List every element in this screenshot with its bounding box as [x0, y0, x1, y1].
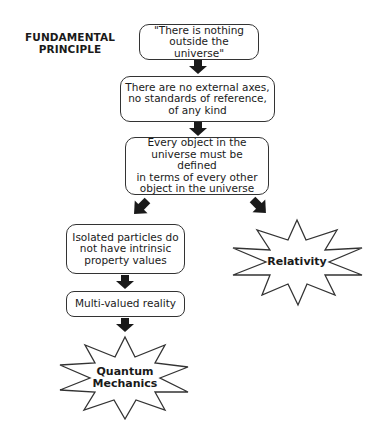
arrow-down-icon	[116, 318, 134, 332]
arrow-down-left-icon	[128, 194, 154, 220]
arrow-down-icon	[189, 122, 207, 136]
multi-valued-reality-box: Multi-valued reality	[66, 291, 185, 317]
box-line: outside the universe"	[144, 36, 254, 59]
no-external-axes-box: There are no external axes, no standards…	[120, 76, 275, 122]
box-line: universe must be defined	[130, 149, 264, 172]
relativity-label: Relativity	[257, 256, 337, 268]
arrow-down-right-icon	[246, 193, 272, 219]
isolated-particles-box: Isolated particles do not have intrinsic…	[66, 224, 185, 274]
box-line: of any kind	[125, 105, 269, 117]
box-line: property values	[72, 255, 178, 267]
arrow-down-icon	[116, 275, 134, 289]
arrow-down-icon	[189, 60, 207, 74]
fundamental-principle-box: "There is nothing outside the universe"	[139, 24, 259, 60]
box-line: object in the universe	[130, 183, 264, 195]
every-object-defined-box: Every object in the universe must be def…	[125, 137, 269, 195]
relativity-text: Relativity	[267, 255, 327, 268]
box-line: Multi-valued reality	[75, 298, 176, 310]
quantum-mechanics-label: Quantum Mechanics	[85, 366, 165, 390]
diagram-graphics	[0, 0, 380, 440]
quantum-text-line-2: Mechanics	[85, 378, 165, 390]
